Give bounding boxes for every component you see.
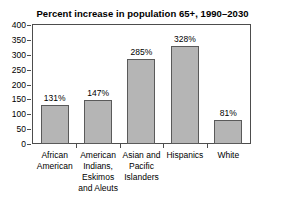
x-axis-ticks	[33, 144, 250, 148]
x-axis-tick-mark	[76, 144, 77, 148]
y-axis-tick-mark	[27, 144, 31, 145]
y-axis-tick-label: 250	[12, 66, 26, 74]
y-axis-tick-label: 200	[12, 81, 26, 89]
y-axis-tick-label: 350	[12, 36, 26, 44]
y-axis-tick-mark	[27, 40, 31, 41]
x-axis-category-label-line: and Aleuts	[70, 183, 125, 194]
bar[interactable]	[214, 120, 242, 144]
bar-value-label: 131%	[44, 94, 66, 103]
x-axis-category-label-line: White	[201, 150, 256, 161]
bar-value-label: 81%	[220, 109, 237, 118]
y-axis-tick-mark	[27, 85, 31, 86]
y-axis-tick-label: 300	[12, 51, 26, 59]
bar[interactable]	[127, 59, 155, 144]
y-axis-tick-label: 50	[17, 125, 26, 133]
y-axis-tick-label: 400	[12, 21, 26, 29]
bar-value-label: 147%	[87, 89, 109, 98]
bar-slot: 147%	[76, 25, 119, 144]
y-axis-tick-label: 100	[12, 110, 26, 118]
y-axis-tick-label: 150	[12, 95, 26, 103]
x-axis-tick-mark	[163, 144, 164, 148]
y-axis-tick-mark	[27, 70, 31, 71]
bar-slot: 81%	[207, 25, 250, 144]
bar[interactable]	[171, 46, 199, 144]
x-axis-labels: AfricanAmericanAmericanIndians,Eskimosan…	[28, 150, 256, 205]
bar-chart-figure: Percent increase in population 65+, 1990…	[0, 0, 285, 209]
y-axis-tick-mark	[27, 129, 31, 130]
bar-value-label: 328%	[174, 35, 196, 44]
y-axis-tick-label: 0	[21, 140, 26, 148]
y-axis-tick-mark	[27, 99, 31, 100]
x-axis-category-label-line: Pacific	[114, 161, 169, 172]
x-axis-category-label: White	[201, 150, 256, 161]
y-axis: 400350300250200150100500	[0, 24, 26, 144]
y-axis-tick-mark	[27, 114, 31, 115]
x-axis-tick-mark	[207, 144, 208, 148]
y-axis-tick-mark	[27, 25, 31, 26]
y-axis-tick-mark	[27, 55, 31, 56]
x-axis-category-label-line: Islanders	[114, 172, 169, 183]
bar[interactable]	[41, 105, 69, 144]
bar-slot: 285%	[120, 25, 163, 144]
bar[interactable]	[84, 100, 112, 144]
bars-group: 131%147%285%328%81%	[33, 25, 250, 144]
chart-title: Percent increase in population 65+, 1990…	[0, 8, 285, 19]
bar-value-label: 285%	[131, 48, 153, 57]
bar-slot: 328%	[163, 25, 206, 144]
bar-slot: 131%	[33, 25, 76, 144]
x-axis-tick-mark	[120, 144, 121, 148]
